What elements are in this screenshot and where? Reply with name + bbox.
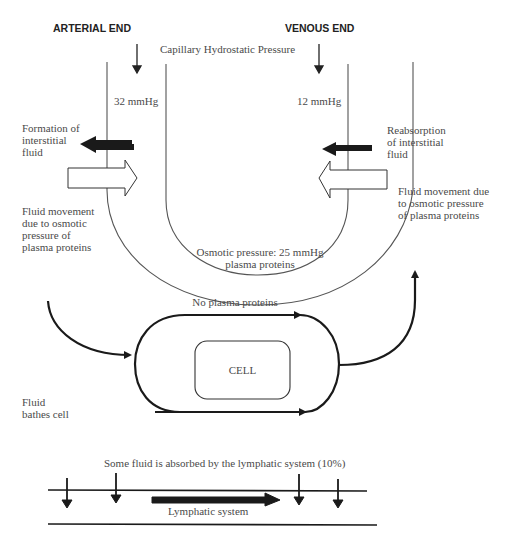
osmotic-proteins-label: plasma proteins — [160, 258, 360, 270]
venous-end-header: VENOUS END — [285, 22, 354, 34]
outflow-curve — [339, 272, 415, 365]
formation-label: Formation of interstitial fluid — [22, 122, 80, 158]
down-arrow-icon — [111, 495, 121, 503]
osmotic-pressure-label: Osmotic pressure: 25 mmHg — [160, 246, 360, 258]
reabsorption-label: Reabsorption of interstitial fluid — [387, 124, 446, 160]
down-arrow-icon — [333, 500, 343, 508]
down-arrow-icon — [62, 500, 72, 508]
cell-label: CELL — [215, 364, 270, 376]
lymphatic-system-label: Lymphatic system — [168, 505, 248, 517]
lymphatic-caption: Some fluid is absorbed by the lymphatic … — [104, 457, 345, 469]
down-arrow-icon — [294, 497, 304, 505]
fluid-flow — [48, 272, 415, 412]
osmotic-arrow-left-icon — [68, 160, 137, 196]
reabsorption-arrow-icon — [322, 142, 372, 156]
lymphatic-vessel — [48, 473, 377, 525]
osmotic-arrow-right-icon — [319, 161, 387, 198]
arterial-pressure-value: 32 mmHg — [114, 95, 158, 107]
inflow-curve — [48, 301, 130, 355]
left-osmotic-label: Fluid movement due to osmotic pressure o… — [22, 205, 94, 253]
no-plasma-proteins-label: No plasma proteins — [170, 296, 300, 308]
right-osmotic-label: Fluid movement due to osmotic pressure o… — [398, 185, 489, 221]
down-arrow-icon — [133, 66, 141, 73]
arterial-end-header: ARTERIAL END — [53, 22, 131, 34]
fluid-bathes-cell-label: Fluid bathes cell — [22, 396, 69, 420]
venous-pressure-value: 12 mmHg — [297, 95, 341, 107]
down-arrow-icon — [315, 66, 323, 73]
hydrostatic-pressure-label: Capillary Hydrostatic Pressure — [160, 43, 295, 55]
